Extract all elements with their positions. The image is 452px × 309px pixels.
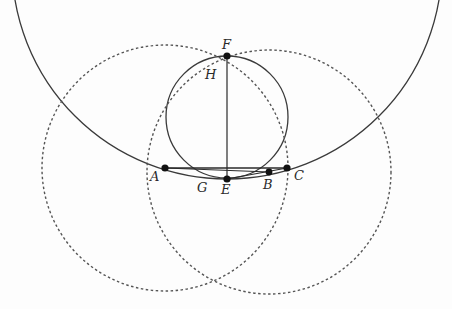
geometry-figure: A B C E F G H <box>0 0 452 309</box>
point-B <box>266 169 273 176</box>
label-C: C <box>294 168 304 183</box>
label-G: G <box>197 180 207 195</box>
point-A <box>161 164 168 171</box>
diagram-canvas: A B C E F G H <box>0 0 452 309</box>
label-H: H <box>204 67 217 82</box>
label-B: B <box>262 177 273 192</box>
point-F <box>223 52 230 59</box>
label-E: E <box>220 182 231 197</box>
label-F: F <box>221 37 232 52</box>
point-C <box>283 164 290 171</box>
label-A: A <box>149 169 159 184</box>
